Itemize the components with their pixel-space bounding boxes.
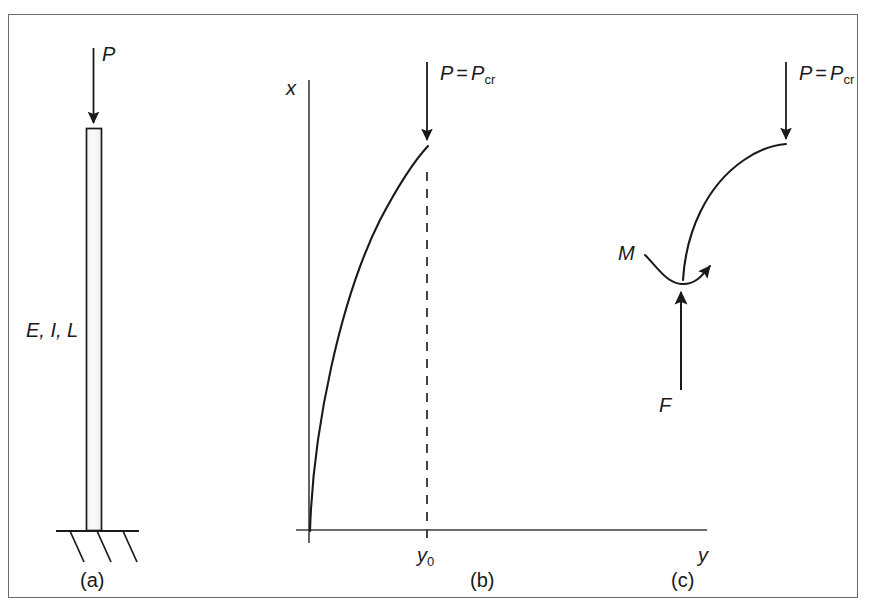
panel-c-force-label: F [659,395,671,415]
panel-b-deflection-label: y0 [417,545,434,565]
panel-b-load-equals: = [453,62,471,84]
panel-b-load-Pcr-base: P [471,62,484,84]
panel-b-caption: (b) [470,570,494,590]
panel-b-deflection-base: y [417,544,427,566]
panel-a-properties-label: E, I, L [26,320,78,340]
panel-c-load-Pcr-base: P [830,62,843,84]
panel-c-caption: (c) [671,570,694,590]
panel-b-x-axis-label: x [286,78,296,98]
panel-c-moment-label: M [618,243,635,263]
panel-b-y-axis-label: y [698,545,708,565]
panel-a-load-label: P [102,44,115,64]
panel-b-critical-load-label: P=Pcr [440,63,496,83]
panel-c-load-Pcr-subscript: cr [843,72,854,87]
panel-b-load-Pcr-subscript: cr [484,72,495,87]
figure-root: P E, I, L (a) x y y0 P=Pcr (b) M F P=Pcr… [0,0,879,608]
panel-c-load-P: P [799,62,812,84]
panel-b-load-P: P [440,62,453,84]
panel-b-deflection-subscript: 0 [427,554,434,569]
panel-c-load-equals: = [812,62,830,84]
figure-border-frame [8,14,858,598]
panel-a-caption: (a) [80,570,104,590]
panel-c-critical-load-label: P=Pcr [799,63,855,83]
